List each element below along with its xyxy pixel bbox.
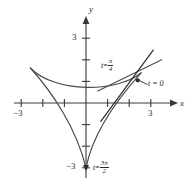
y-axis bbox=[82, 16, 90, 178]
annotation-t-zero: t = 0 bbox=[148, 80, 164, 88]
fraction-3pi-over-2: 3π2 bbox=[100, 160, 109, 176]
y-tick-label-pos3: 3 bbox=[72, 33, 77, 42]
fraction-denominator-bottom: 2 bbox=[100, 167, 109, 175]
x-tick-label-neg3: −3 bbox=[13, 109, 23, 118]
figure-container: x y −3 3 3 −3 t=π4 t = 0 t=3π2 bbox=[0, 0, 195, 183]
plot-canvas bbox=[0, 0, 195, 183]
y-axis-label: y bbox=[89, 5, 93, 14]
annotation-t-3pi-over-2: t=3π2 bbox=[93, 160, 109, 176]
x-axis-label: x bbox=[180, 99, 184, 108]
leader-line-t-0 bbox=[139, 81, 147, 85]
x-tick-label-pos3: 3 bbox=[148, 109, 153, 118]
fraction-pi-over-4: π4 bbox=[108, 58, 114, 74]
fraction-numerator-bottom: 3π bbox=[100, 160, 109, 167]
y-tick-label-neg3: −3 bbox=[66, 162, 76, 171]
x-axis bbox=[14, 99, 178, 107]
marker-t-0 bbox=[136, 78, 140, 82]
fraction-denominator: 4 bbox=[108, 65, 114, 73]
fraction-numerator: π bbox=[108, 58, 114, 65]
annotation-t-pi-over-4: t=π4 bbox=[101, 58, 113, 74]
